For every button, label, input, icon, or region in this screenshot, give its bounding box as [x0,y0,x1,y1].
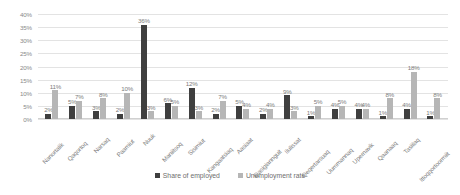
bar[interactable] [363,109,369,120]
bar-value-label: 2% [116,106,125,113]
bar[interactable] [243,109,249,120]
bar-group: 1%5% [303,14,327,119]
bar[interactable] [117,114,123,119]
bar-value-label: 5% [171,98,180,105]
bar-value-label: 5% [314,98,323,105]
bar-slot: 18% [411,14,417,119]
chart-legend: Share of employedUnemployment rate [0,172,460,179]
bar-group: 6%5% [159,14,183,119]
bar-value-label: 8% [99,91,108,98]
bar[interactable] [380,116,386,119]
legend-swatch-icon [155,173,160,178]
x-axis-label: Upernavik [351,141,375,165]
bar-group: 2%11% [40,14,64,119]
bar-value-label: 8% [385,91,394,98]
bar-value-label: 4% [362,101,371,108]
y-axis-tick-label: 0% [23,116,32,123]
bar[interactable] [93,111,99,119]
bar[interactable] [332,109,338,120]
bar[interactable] [308,116,314,119]
bar-slot: 1% [380,14,386,119]
x-axis-label: Sisimiut [187,137,207,157]
y-axis-tick-label: 40% [20,11,32,18]
bar[interactable] [267,109,273,120]
bar-slot: 2% [213,14,219,119]
bar-group: 3%8% [88,14,112,119]
bar-value-label: 4% [402,101,411,108]
bar-slot: 7% [76,14,82,119]
bar-slot: 3% [93,14,99,119]
y-axis: 0%5%10%15%20%25%30%35%40% [0,14,36,119]
x-axis-labels: NanortalikQaqortoqNarsaqPaamiutNuukManii… [38,120,448,168]
bar[interactable] [45,114,51,119]
bar[interactable] [196,111,202,119]
bar-value-label: 3% [92,104,101,111]
bar-value-label: 4% [266,101,275,108]
bar[interactable] [291,111,297,119]
bar-slot: 8% [434,14,440,119]
bar-slot: 10% [124,14,130,119]
bar-group: 2%10% [112,14,136,119]
y-axis-tick-label: 15% [20,76,32,83]
bar-value-label: 18% [408,64,420,71]
bar-value-label: 5% [338,98,347,105]
bar[interactable] [124,93,130,119]
y-axis-tick-label: 35% [20,24,32,31]
bar-slot: 2% [45,14,51,119]
bar-value-label: 9% [283,88,292,95]
legend-item[interactable]: Share of employed [155,172,220,179]
bar[interactable] [387,98,393,119]
bar-value-label: 1% [378,109,387,116]
bar[interactable] [100,98,106,119]
y-axis-tick-label: 30% [20,37,32,44]
bar-slot: 7% [220,14,226,119]
bar-value-label: 1% [426,109,435,116]
bar[interactable] [315,106,321,119]
bar-value-label: 1% [307,109,316,116]
bar[interactable] [213,114,219,119]
bar[interactable] [427,116,433,119]
bar[interactable] [260,114,266,119]
bar[interactable] [52,90,58,119]
bar-value-label: 3% [147,104,156,111]
bar[interactable] [76,101,82,119]
bar-group: 4%18% [398,14,422,119]
bar-chart: 0%5%10%15%20%25%30%35%40% 2%11%5%7%3%8%2… [0,0,460,195]
bar[interactable] [165,103,171,119]
x-axis-label: Narsaq [92,136,111,155]
bar-slot: 3% [148,14,154,119]
bar[interactable] [220,101,226,119]
bar-groups: 2%11%5%7%3%8%2%10%36%3%6%5%12%3%2%7%5%4%… [38,14,448,119]
bar-slot: 8% [100,14,106,119]
plot-area: 2%11%5%7%3%8%2%10%36%3%6%5%12%3%2%7%5%4%… [38,14,448,119]
bar[interactable] [404,109,410,120]
bar[interactable] [411,72,417,119]
bar[interactable] [148,111,154,119]
bar-slot: 5% [69,14,75,119]
y-axis-tick-label: 25% [20,50,32,57]
bar[interactable] [172,106,178,119]
bar-value-label: 4% [242,101,251,108]
legend-item[interactable]: Unemployment rate [238,172,305,179]
bar[interactable] [339,106,345,119]
bar-slot: 3% [291,14,297,119]
bar-slot: 3% [196,14,202,119]
bar[interactable] [69,106,75,119]
bar-value-label: 7% [218,93,227,100]
x-axis-label: Nuuk [142,132,157,147]
x-axis-label: Qaanaaq [376,140,398,162]
bar-group: 5%7% [64,14,88,119]
bar[interactable] [434,98,440,119]
bar[interactable] [356,109,362,120]
bar-slot: 1% [427,14,433,119]
x-axis-label: Ilulissat [283,136,302,155]
bar-group: 1%8% [422,14,446,119]
bar-slot: 5% [172,14,178,119]
bar-slot: 2% [117,14,123,119]
bar-slot: 4% [267,14,273,119]
bar-slot: 4% [243,14,249,119]
bar-value-label: 3% [194,104,203,111]
bar-slot: 4% [363,14,369,119]
bar-group: 12%3% [183,14,207,119]
x-axis-label: Aasiaat [235,136,254,155]
